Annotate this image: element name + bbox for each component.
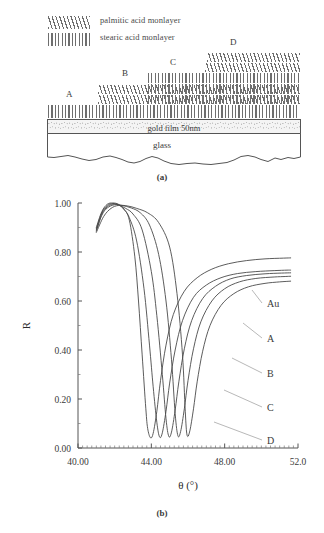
y-tick-label: 0.00 (54, 444, 71, 454)
panel-b-caption: (b) (0, 508, 324, 518)
film-layer-a-1 (48, 105, 300, 118)
panel-a-caption: (a) (0, 172, 324, 182)
leader-line-C (224, 390, 262, 407)
leader-line-B (232, 358, 262, 373)
curve-A (96, 203, 290, 437)
curve-annotation-C: C (267, 402, 274, 413)
x-tick-label: 48.00 (214, 457, 236, 467)
region-label-b: B (122, 68, 128, 78)
curve-annotation-D: D (267, 435, 274, 446)
x-tick-label: 52.0 (290, 457, 307, 467)
legend-label-palmitic: palmitic acid monlayer (100, 15, 181, 25)
y-axis-title: R (20, 321, 32, 329)
palmitic-hatch-swatch-icon (48, 16, 90, 29)
curve-annotation-A: A (267, 333, 275, 344)
curve-D (96, 205, 290, 436)
region-label-d: D (230, 37, 237, 47)
film-layer-c-3 (148, 73, 300, 83)
x-axis-title: θ (°) (178, 479, 198, 492)
curve-annotation-Au: Au (267, 298, 279, 309)
film-layer-c-1 (148, 95, 300, 104)
leader-line-Au (252, 290, 262, 303)
spr-reflectivity-chart: 0.000.200.400.600.801.0040.0044.0048.005… (0, 190, 324, 533)
film-layer-d-2 (207, 53, 300, 62)
gold-film-label: gold film 50nm (48, 123, 300, 133)
spr-plot-panel: 0.000.200.400.600.801.0040.0044.0048.005… (0, 190, 324, 533)
schematic-panel: palmitic acid monlayer stearic acid monl… (0, 0, 324, 190)
curve-B (96, 204, 290, 437)
stearic-hatch-swatch-icon (48, 33, 90, 46)
region-label-c: C (170, 57, 176, 67)
gold-film-block: gold film 50nm (47, 119, 301, 134)
legend-label-stearic: stearic acid monlayer (100, 32, 175, 42)
y-tick-label: 0.60 (54, 297, 71, 307)
y-tick-label: 0.80 (54, 248, 71, 258)
curve-Au (96, 203, 290, 438)
y-tick-label: 1.00 (54, 199, 71, 209)
y-tick-label: 0.40 (54, 346, 71, 356)
film-layer-d-1 (205, 63, 300, 72)
curve-C (96, 205, 290, 437)
curve-annotation-B: B (267, 368, 274, 379)
x-tick-label: 44.00 (141, 457, 163, 467)
glass-label: glass (0, 140, 324, 150)
region-label-a: A (66, 89, 73, 99)
leader-line-A (243, 323, 262, 338)
leader-line-D (214, 422, 262, 440)
x-tick-label: 40.00 (67, 457, 89, 467)
y-tick-label: 0.20 (54, 395, 71, 405)
film-layer-c-2 (148, 84, 300, 94)
